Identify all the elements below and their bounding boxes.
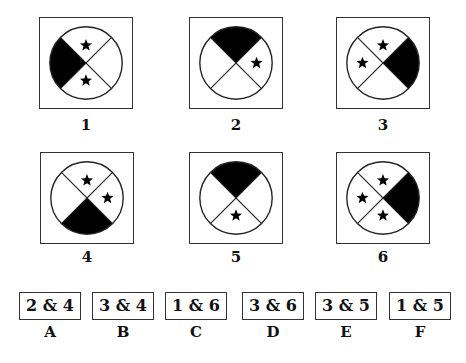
star-icon (377, 209, 389, 221)
figure-label-1: 1 (66, 116, 106, 134)
figure-label-2: 2 (216, 116, 256, 134)
option-f-letter: F (405, 323, 435, 341)
option-a-box[interactable]: 2 & 4 (19, 292, 81, 320)
option-f-box[interactable]: 1 & 5 (389, 292, 451, 320)
star-icon (81, 174, 93, 186)
circle-diagram-1 (40, 18, 132, 108)
option-b-letter: B (108, 323, 138, 341)
star-icon (80, 74, 92, 86)
option-e-letter: E (331, 323, 361, 341)
star-icon (356, 57, 368, 69)
star-icon (80, 39, 92, 51)
figure-label-6: 6 (363, 248, 403, 266)
circle-diagram-4 (41, 153, 133, 243)
circle-diagram-5 (190, 153, 282, 243)
figure-label-5: 5 (216, 248, 256, 266)
figure-2 (189, 17, 283, 109)
figure-5 (189, 152, 283, 244)
figure-6 (336, 152, 430, 244)
option-d-box[interactable]: 3 & 6 (242, 292, 304, 320)
figure-1 (39, 17, 133, 109)
figure-3 (336, 17, 430, 109)
figure-label-4: 4 (67, 248, 107, 266)
option-e-box[interactable]: 3 & 5 (315, 292, 377, 320)
option-d-letter: D (258, 323, 288, 341)
star-icon (250, 57, 262, 69)
figure-4 (40, 152, 134, 244)
star-icon (377, 174, 389, 186)
circle-diagram-6 (337, 153, 429, 243)
star-icon (230, 209, 242, 221)
star-icon (101, 192, 113, 204)
star-icon (377, 39, 389, 51)
circle-diagram-3 (337, 18, 429, 108)
option-c-box[interactable]: 1 & 6 (165, 292, 227, 320)
star-icon (356, 192, 368, 204)
option-a-letter: A (35, 323, 65, 341)
circle-diagram-2 (190, 18, 282, 108)
option-b-box[interactable]: 3 & 4 (92, 292, 154, 320)
figure-label-3: 3 (363, 116, 403, 134)
option-c-letter: C (181, 323, 211, 341)
